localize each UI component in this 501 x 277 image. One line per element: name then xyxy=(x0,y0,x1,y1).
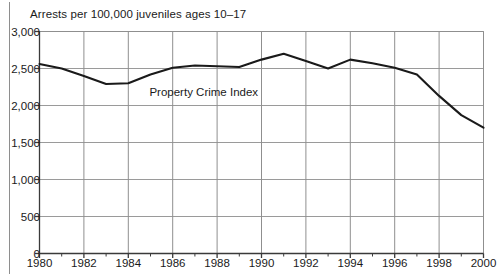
x-axis-label: 1996 xyxy=(382,257,408,269)
y-axis-label: 3,000 xyxy=(11,26,40,38)
property-crime-index-chart: Arrests per 100,000 juveniles ages 10–17… xyxy=(0,0,501,277)
x-axis-label: 1998 xyxy=(426,257,452,269)
x-axis-label: 1982 xyxy=(71,257,97,269)
series-annotation-property-crime-index: Property Crime Index xyxy=(149,86,258,98)
y-axis-label: 1,500 xyxy=(11,137,40,149)
x-axis-label: 1992 xyxy=(293,257,319,269)
x-axis-label: 1988 xyxy=(204,257,230,269)
plot-area xyxy=(0,0,501,277)
x-axis-label: 1994 xyxy=(338,257,364,269)
x-axis-label: 1980 xyxy=(27,257,53,269)
y-axis-tick-labels: 05001,0001,5002,0002,5003,000 xyxy=(0,0,40,277)
y-axis-label: 1,000 xyxy=(11,174,40,186)
x-axis-label: 1986 xyxy=(160,257,186,269)
y-axis-label: 500 xyxy=(21,211,40,223)
x-axis-label: 1990 xyxy=(249,257,275,269)
x-axis-label: 1984 xyxy=(116,257,142,269)
chart-title: Arrests per 100,000 juveniles ages 10–17 xyxy=(30,8,246,20)
y-axis-label: 2,000 xyxy=(11,100,40,112)
y-axis-label: 2,500 xyxy=(11,63,40,75)
x-axis-label: 2000 xyxy=(471,257,497,269)
